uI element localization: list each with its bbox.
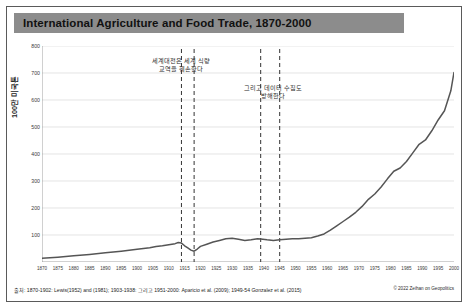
x-tick-label: 1985 — [401, 266, 411, 271]
chart-figure: International Agriculture and Food Trade… — [0, 0, 468, 308]
y-tick-label: 400 — [31, 151, 40, 157]
x-tick-label: 1980 — [385, 266, 395, 271]
x-tick-label: 1955 — [306, 266, 316, 271]
x-tick-label: 1940 — [259, 266, 269, 271]
annotation-world-wars-line2: 교역을 훼손한다 — [129, 65, 233, 73]
x-tick-label: 1915 — [179, 266, 189, 271]
y-tick-label: 500 — [31, 124, 40, 130]
x-tick-label: 1970 — [354, 266, 364, 271]
annotation-world-wars: 세계대전은 세계 식량 교역을 훼손한다 — [129, 57, 233, 73]
plot-area — [42, 46, 454, 262]
x-tick-label: 1995 — [433, 266, 443, 271]
annotation-data-collection-line1: 그리고 데이터 수집도 — [224, 84, 322, 92]
source-note: 출처: 1870-1902: Lewis(1952) and (1981); 1… — [14, 286, 302, 293]
x-tick-label: 1935 — [243, 266, 253, 271]
x-tick-label: 1920 — [195, 266, 205, 271]
x-tick-label: 1965 — [338, 266, 348, 271]
x-tick-label: 1870 — [37, 266, 47, 271]
annotation-data-collection-line2: 방해한다 — [224, 92, 322, 100]
x-tick-label: 1930 — [227, 266, 237, 271]
y-axis-tick-labels: 100200300400500600700800 — [14, 46, 40, 262]
x-tick-label: 1925 — [211, 266, 221, 271]
x-tick-label: 1905 — [148, 266, 158, 271]
annotation-world-wars-line1: 세계대전은 세계 식량 — [129, 57, 233, 65]
x-tick-label: 1975 — [370, 266, 380, 271]
y-tick-label: 600 — [31, 97, 40, 103]
x-tick-label: 1880 — [69, 266, 79, 271]
x-tick-label: 1890 — [100, 266, 110, 271]
annotation-data-collection: 그리고 데이터 수집도 방해한다 — [224, 84, 322, 100]
x-tick-label: 1875 — [53, 266, 63, 271]
x-tick-label: 1900 — [132, 266, 142, 271]
chart-canvas — [42, 46, 454, 262]
page-title: International Agriculture and Food Trade… — [23, 17, 311, 29]
y-tick-label: 800 — [31, 43, 40, 49]
x-axis-tick-labels: 1870187518801885189018951900190519101915… — [42, 266, 454, 278]
title-banner: International Agriculture and Food Trade… — [14, 13, 404, 33]
y-tick-label: 700 — [31, 70, 40, 76]
x-tick-label: 1885 — [84, 266, 94, 271]
y-tick-label: 200 — [31, 205, 40, 211]
x-tick-label: 1945 — [275, 266, 285, 271]
x-tick-label: 1960 — [322, 266, 332, 271]
x-tick-label: 1990 — [417, 266, 427, 271]
x-tick-label: 1950 — [290, 266, 300, 271]
x-tick-label: 1895 — [116, 266, 126, 271]
y-tick-label: 100 — [31, 232, 40, 238]
copyright-credit: © 2022 Zeihan on Geopolitics — [393, 286, 454, 291]
y-tick-label: 300 — [31, 178, 40, 184]
footer: 출처: 1870-1902: Lewis(1952) and (1981); 1… — [14, 286, 454, 298]
x-tick-label: 2000 — [449, 266, 459, 271]
x-tick-label: 1910 — [164, 266, 174, 271]
